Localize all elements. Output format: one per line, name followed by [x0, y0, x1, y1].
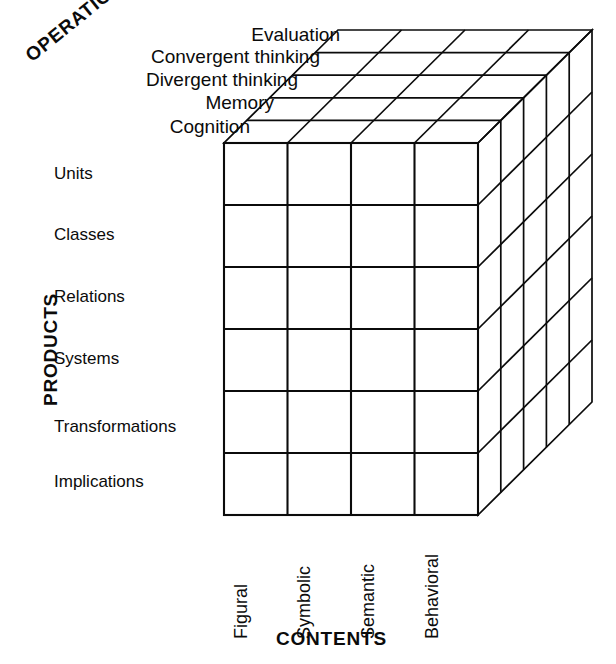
- cube-front-face: [224, 143, 478, 515]
- soi-figure: OPERATIONS Evaluation Convergent thinkin…: [0, 0, 616, 664]
- operations-label-evaluation: Evaluation: [251, 25, 340, 44]
- products-label-systems: Systems: [54, 350, 119, 367]
- operations-label-cognition: Cognition: [170, 117, 250, 136]
- contents-label-figural: Figural: [232, 584, 250, 639]
- products-label-implications: Implications: [54, 473, 144, 490]
- operations-label-convergent-thinking: Convergent thinking: [151, 47, 320, 66]
- operations-label-divergent-thinking: Divergent thinking: [146, 70, 298, 89]
- products-label-classes: Classes: [54, 226, 114, 243]
- products-label-relations: Relations: [54, 288, 125, 305]
- products-label-units: Units: [54, 165, 93, 182]
- contents-axis-title: CONTENTS: [276, 629, 387, 648]
- operations-label-memory: Memory: [205, 93, 274, 112]
- contents-label-behavioral: Behavioral: [423, 554, 441, 639]
- cube-right-face: [478, 30, 592, 515]
- soi-cube-wireframe: [0, 0, 616, 664]
- products-label-transformations: Transformations: [54, 418, 176, 435]
